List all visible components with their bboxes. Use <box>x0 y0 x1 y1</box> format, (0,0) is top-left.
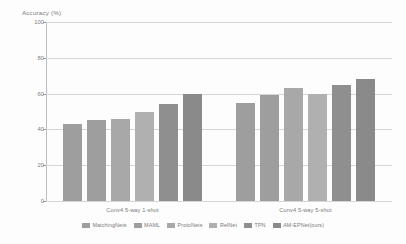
bar <box>260 95 279 201</box>
legend-swatch-icon <box>134 223 142 228</box>
legend-label: MAML <box>144 222 160 228</box>
legend-swatch-icon <box>273 223 281 228</box>
bar-group: Conv4 5-way 5-shot <box>219 22 392 201</box>
legend-label: TPN <box>255 222 266 228</box>
y-tick-label: 0 <box>10 198 44 204</box>
y-tick-label: 20 <box>10 162 44 168</box>
bar <box>159 104 178 201</box>
legend-item[interactable]: RelNet <box>209 222 237 228</box>
x-axis-category-label: Conv4 5-way 5-shot <box>219 207 392 213</box>
gridline <box>46 201 392 202</box>
bar <box>356 79 375 201</box>
y-tick-label: 60 <box>10 91 44 97</box>
bar <box>332 85 351 201</box>
y-axis-title: Accuracy (%) <box>22 9 61 16</box>
bar-chart: Accuracy (%) 020406080100 Conv4 5-way 1-… <box>0 0 406 244</box>
y-tick-label: 40 <box>10 126 44 132</box>
bar <box>135 112 154 202</box>
legend-label: AM-EPNet(ours) <box>283 222 324 228</box>
legend-swatch-icon <box>167 223 175 228</box>
y-tick-label: 100 <box>10 19 44 25</box>
bar <box>236 103 255 201</box>
legend-item[interactable]: MAML <box>134 222 160 228</box>
legend-item[interactable]: ProtoNets <box>167 222 202 228</box>
legend-swatch-icon <box>209 223 217 228</box>
bar <box>63 124 82 201</box>
bar-groups: Conv4 5-way 1-shotConv4 5-way 5-shot <box>46 22 392 201</box>
bar <box>183 94 202 201</box>
legend-swatch-icon <box>244 223 252 228</box>
bar <box>308 94 327 201</box>
bar <box>111 119 130 201</box>
legend-label: ProtoNets <box>178 222 203 228</box>
legend-label: MatchingNets <box>92 222 126 228</box>
bar-group: Conv4 5-way 1-shot <box>46 22 219 201</box>
legend-item[interactable]: AM-EPNet(ours) <box>273 222 324 228</box>
legend-item[interactable]: TPN <box>244 222 266 228</box>
x-axis-category-label: Conv4 5-way 1-shot <box>46 207 219 213</box>
plot-area: 020406080100 Conv4 5-way 1-shotConv4 5-w… <box>46 22 392 201</box>
legend-label: RelNet <box>220 222 237 228</box>
legend-item[interactable]: MatchingNets <box>82 222 127 228</box>
legend-swatch-icon <box>82 223 90 228</box>
y-tick-label: 80 <box>10 55 44 61</box>
chart-legend: MatchingNetsMAMLProtoNetsRelNetTPNAM-EPN… <box>0 222 406 228</box>
bar <box>87 120 106 201</box>
bar <box>284 88 303 201</box>
